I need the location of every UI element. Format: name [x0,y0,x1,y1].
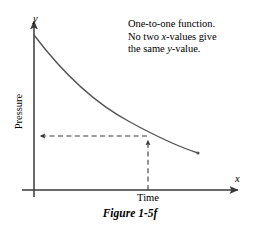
annotation-line-3-post: -value. [172,43,201,54]
annotation-line-2: No two x-values give [128,31,246,44]
y-axis-symbol: y [33,13,38,24]
annotation-line-1: One-to-one function. [128,18,246,31]
annotation-line-2-pre: No two [128,31,161,42]
curve-endpoint-marker [196,151,199,154]
annotation-text: One-to-one function. No two x-values giv… [128,18,246,56]
y-axis-title: Pressure [13,80,24,144]
x-axis-title: Time [118,192,178,203]
annotation-line-2-post: -values give [166,31,216,42]
annotation-line-1-pre: One-to-one function. [128,18,215,29]
annotation-line-3: the same y-value. [128,43,246,56]
figure-container: y x Pressure Time One-to-one function. N… [0,0,260,229]
figure-caption: Figure 1-5f [0,207,260,219]
x-axis-symbol: x [235,173,240,184]
annotation-line-3-pre: the same [128,43,167,54]
